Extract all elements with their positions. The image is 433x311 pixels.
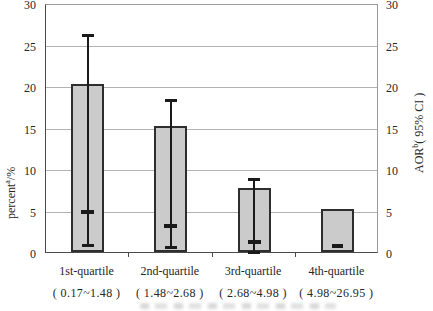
right-axis-title-superscript: b [411, 144, 420, 148]
x-axis-tick [128, 253, 129, 257]
error-bar-upper-cap [248, 178, 260, 181]
right-axis-tick-label: 5 [386, 207, 414, 220]
right-axis-title-unit: ( 95% CI ) [412, 93, 426, 144]
error-bar-lower-cap [82, 244, 94, 247]
error-bar-upper-cap [165, 99, 177, 102]
gridline [46, 46, 377, 47]
right-axis-title-text: AOR [412, 148, 426, 173]
right-axis-tick-label: 15 [386, 124, 414, 137]
right-axis-tick-label: 20 [386, 82, 414, 95]
right-axis-tick-label: 30 [386, 0, 414, 12]
cutoff-caption-smudge [140, 303, 336, 309]
left-axis-tick-label: 10 [0, 165, 36, 178]
aor-reference-dash [332, 244, 343, 248]
category-label: 4th-quartile [286, 264, 386, 279]
x-axis-tick [295, 253, 296, 257]
aor-point-tick [81, 210, 94, 214]
error-bar-lower-cap [248, 251, 260, 254]
category-range-label: ( 4.98~26.95 ) [281, 286, 391, 301]
left-axis-tick-label: 25 [0, 41, 36, 54]
error-bar-upper-cap [82, 34, 94, 37]
left-axis-title-superscript: a [3, 180, 12, 184]
plot-area [45, 4, 378, 253]
aor-point-tick [164, 224, 177, 228]
left-axis-tick-label: 20 [0, 82, 36, 95]
left-axis-tick-label: 15 [0, 124, 36, 137]
left-axis-tick-label: 5 [0, 207, 36, 220]
left-axis-tick-label: 30 [0, 0, 36, 12]
x-axis-tick [212, 253, 213, 257]
error-bar-lower-cap [165, 246, 177, 249]
bar-chart-figure: percenta/% AORb( 95% CI ) 00551010151520… [0, 0, 433, 311]
aor-point-tick [248, 240, 261, 244]
left-axis-tick-label: 0 [0, 248, 36, 261]
right-axis-tick-label: 10 [386, 165, 414, 178]
right-axis-tick-label: 0 [386, 248, 414, 261]
right-axis-tick-label: 25 [386, 41, 414, 54]
